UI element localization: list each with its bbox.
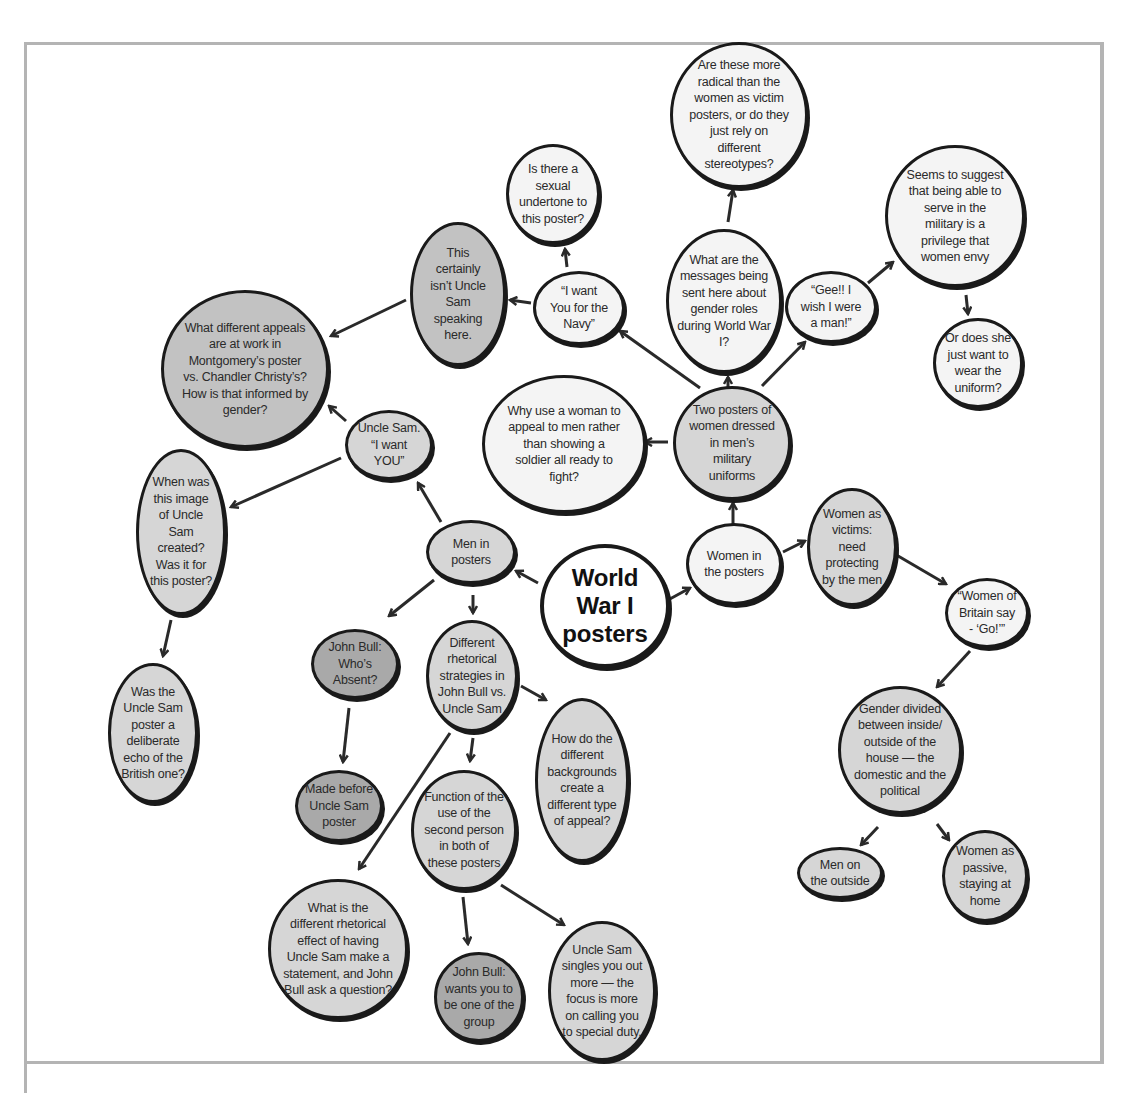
node-label: Different rhetorical strategies in John … <box>438 635 506 718</box>
node-women-as-victims: Women as victims: need protecting by the… <box>807 488 897 606</box>
node-different-backgrounds: How do the different backgrounds create … <box>535 698 629 862</box>
central-node-world-war-i-posters: World War I posters <box>540 544 670 668</box>
node-label: Men on the outside <box>811 857 870 890</box>
node-label: John Bull: Who’s Absent? <box>329 639 382 689</box>
node-made-before-uncle-sam: Made before Uncle Sam poster <box>295 770 383 842</box>
node-when-was-uncle-sam-created: When was this image of Uncle Sam created… <box>136 449 226 615</box>
node-john-bull-whos-absent: John Bull: Who’s Absent? <box>311 629 399 699</box>
node-messages-gender-roles: What are the messages being sent here ab… <box>666 229 782 373</box>
node-different-rhetorical-strategies: Different rhetorical strategies in John … <box>426 620 518 732</box>
node-women-in-the-posters: Women in the posters <box>686 523 782 605</box>
node-privilege-women-envy: Seems to suggest that being able to serv… <box>885 145 1025 287</box>
node-label: Function of the use of the second person… <box>424 789 504 872</box>
node-label: Was the Uncle Sam poster a deliberate ec… <box>121 684 185 783</box>
node-label: Made before Uncle Sam poster <box>305 781 373 831</box>
node-why-use-a-woman: Why use a woman to appeal to men rather … <box>482 375 646 513</box>
node-label: What is the different rhetorical effect … <box>283 900 392 999</box>
node-deliberate-echo: Was the Uncle Sam poster a deliberate ec… <box>108 663 198 803</box>
node-wear-the-uniform: Or does she just want to wear the unifor… <box>933 318 1023 408</box>
frame-left-extension <box>24 1064 27 1093</box>
node-label: Uncle Sam. “I want YOU” <box>358 420 421 470</box>
node-rhetorical-effect: What is the different rhetorical effect … <box>268 879 408 1019</box>
node-label: “I want You for the Navy” <box>550 283 608 333</box>
node-label: World War I posters <box>562 564 647 648</box>
node-label: “Gee!! I wish I were a man!” <box>801 282 861 332</box>
node-label: Women in the posters <box>704 548 764 581</box>
node-label: How do the different backgrounds create … <box>547 731 616 830</box>
node-label: This certainly isn’t Uncle Sam speaking … <box>430 245 485 344</box>
node-label: “Women of Britain say - ‘Go!’” <box>957 588 1016 638</box>
node-label: What different appeals are at work in Mo… <box>182 320 308 419</box>
node-uncle-sam-i-want-you: Uncle Sam. “I want YOU” <box>345 410 433 480</box>
node-label: Are these more radical than the women as… <box>689 57 789 173</box>
node-label: Gender divided between inside/ outside o… <box>854 701 946 800</box>
node-label: John Bull: wants you to be one of the gr… <box>444 964 514 1030</box>
node-i-want-you-navy: “I want You for the Navy” <box>533 271 625 345</box>
node-different-appeals: What different appeals are at work in Mo… <box>161 290 329 448</box>
node-label: Why use a woman to appeal to men rather … <box>507 403 620 486</box>
node-label: Women as victims: need protecting by the… <box>822 506 882 589</box>
node-men-on-the-outside: Men on the outside <box>797 847 883 899</box>
node-label: Women as passive, staying at home <box>956 843 1014 909</box>
node-uncle-sam-singles-you-out: Uncle Sam singles you out more — the foc… <box>548 921 656 1061</box>
node-sexual-undertone: Is there a sexual undertone to this post… <box>506 144 600 244</box>
node-not-uncle-sam: This certainly isn’t Uncle Sam speaking … <box>410 222 506 366</box>
node-men-in-posters: Men in posters <box>426 520 516 584</box>
node-john-bull-one-of-group: John Bull: wants you to be one of the gr… <box>434 952 524 1042</box>
node-more-radical: Are these more radical than the women as… <box>670 42 808 188</box>
node-label: Men in posters <box>451 536 491 569</box>
node-label: Two posters of women dressed in men’s mi… <box>689 402 775 485</box>
node-women-as-passive: Women as passive, staying at home <box>942 830 1028 922</box>
node-gee-i-wish: “Gee!! I wish I were a man!” <box>785 271 877 343</box>
node-women-of-britain: “Women of Britain say - ‘Go!’” <box>945 578 1029 648</box>
node-label: When was this image of Uncle Sam created… <box>150 474 212 590</box>
node-label: Is there a sexual undertone to this post… <box>519 161 587 227</box>
node-second-person: Function of the use of the second person… <box>411 770 517 890</box>
node-label: What are the messages being sent here ab… <box>677 252 770 351</box>
node-label: Seems to suggest that being able to serv… <box>907 167 1004 266</box>
node-label: Uncle Sam singles you out more — the foc… <box>562 942 642 1041</box>
node-two-posters-women-uniforms: Two posters of women dressed in men’s mi… <box>673 386 791 500</box>
node-label: Or does she just want to wear the unifor… <box>945 330 1011 396</box>
node-gender-divided: Gender divided between inside/ outside o… <box>838 686 962 814</box>
